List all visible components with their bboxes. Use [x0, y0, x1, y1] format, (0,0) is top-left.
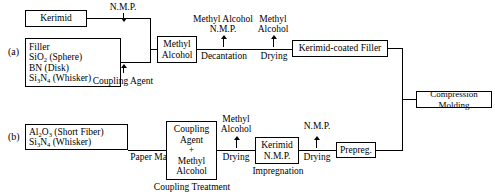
kerimid-nmp-line1: Kerimid	[261, 140, 293, 151]
kerimid-coated-filler-box: Kerimid-coated Filler	[292, 40, 388, 57]
kerimid-coated-filler-label: Kerimid-coated Filler	[299, 43, 382, 54]
line-paper-making	[128, 150, 166, 151]
prepreg-label: Prepreg.	[340, 145, 372, 156]
coupling-box-line4: Methyl	[178, 156, 205, 167]
line-b-to-merge	[376, 150, 403, 151]
materials-line-si3n4: Si3N4 (Whisker)	[29, 137, 91, 148]
filler-line-filler: Filler	[29, 42, 50, 53]
materials-line-al2o3: Al2O3 (Short Fiber)	[29, 127, 104, 138]
coupling-agent-arrow	[123, 68, 124, 73]
coupling-box-line3-plus: +	[189, 145, 194, 156]
decantation-output-arrow	[223, 39, 224, 47]
line-into-methyl-alcohol	[150, 49, 157, 50]
line-drying2-b	[299, 150, 336, 151]
kerimid-box-label: Kerimid	[40, 13, 72, 24]
coupling-agent-label: Coupling Agent	[91, 76, 155, 87]
filler-line-bn: BN (Disk)	[29, 63, 69, 74]
methyl-alcohol-box-line2: Alcohol	[162, 50, 193, 61]
coupling-box-line5: Alcohol	[176, 166, 207, 177]
drying2-label: Drying	[297, 152, 337, 163]
nmp-input-label-a: N.M.P.	[98, 2, 148, 13]
line-kerimid-out	[87, 18, 150, 19]
drying1-output-label-line2-b: Alcohol	[215, 124, 257, 135]
process-flow-diagram: (a) Kerimid Filler SiO2 (Sphere) BN (Dis…	[0, 0, 495, 194]
line-filler-out	[121, 62, 150, 63]
kerimid-nmp-line2: N.M.P.	[264, 151, 291, 162]
prepreg-box: Prepreg.	[336, 142, 376, 158]
line-merge-vertical-a	[150, 18, 151, 63]
drying2-output-arrow	[316, 140, 317, 148]
drying-output-arrow-a	[273, 39, 274, 47]
line-a-to-merge	[388, 48, 402, 49]
drying-output-label-line2-a: Alcohol	[252, 24, 294, 35]
drying1-output-label-line1-b: Methyl	[215, 114, 257, 125]
compression-molding-box: Compression Molding	[416, 91, 492, 108]
methyl-alcohol-box: Methyl Alcohol	[157, 36, 197, 63]
line-decantation-drying	[197, 49, 292, 50]
compression-molding-label: Compression Molding	[417, 89, 491, 110]
filler-line-si3n4: Si3N4 (Whisker)	[29, 73, 91, 84]
kerimid-nmp-box: Kerimid N.M.P.	[255, 137, 299, 164]
impregnation-label: Impregnation	[243, 166, 313, 177]
drying-output-label-line1-a: Methyl	[252, 14, 294, 25]
drying-label-a: Drying	[254, 51, 294, 62]
coupling-agent-methyl-alcohol-box: Coupling Agent + Methyl Alcohol	[166, 121, 217, 180]
nmp-input-arrow-a	[123, 13, 124, 18]
kerimid-box: Kerimid	[25, 10, 87, 27]
line-drying1-b	[217, 150, 255, 151]
row-label-b: (b)	[8, 131, 20, 142]
row-label-a: (a)	[8, 46, 19, 57]
filler-line-sio2: SiO2 (Sphere)	[29, 52, 82, 63]
coupling-box-line1: Coupling	[174, 124, 209, 135]
decantation-output-label-line2: N.M.P.	[183, 24, 263, 35]
drying2-output-label: N.M.P.	[292, 121, 342, 132]
fiber-materials-box: Al2O3 (Short Fiber) Si3N4 (Whisker)	[25, 124, 128, 150]
methyl-alcohol-box-line1: Methyl	[163, 39, 190, 50]
drying1-output-arrow-b	[236, 140, 237, 148]
coupling-treatment-label: Coupling Treatment	[150, 182, 234, 193]
drying1-label-b: Drying	[216, 152, 256, 163]
coupling-box-line2: Agent	[180, 135, 203, 146]
decantation-output-label-line1: Methyl Alcohol	[183, 14, 263, 25]
decantation-label: Decantation	[198, 51, 250, 62]
line-into-compression-molding	[402, 99, 416, 100]
